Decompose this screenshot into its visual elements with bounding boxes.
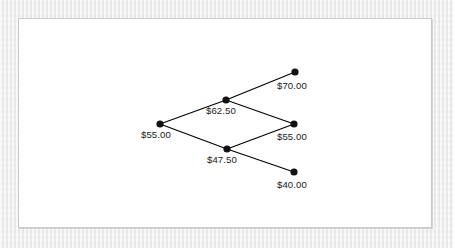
node-value-label-n1u: $62.50: [206, 105, 236, 116]
tree-edge-down: [226, 100, 294, 124]
tree-node-n2ud: [290, 120, 297, 127]
node-value-label-n2ud: $55.00: [277, 131, 307, 142]
tree-node-n0: [156, 120, 163, 127]
tree-node-labels: $55.00$62.50$47.50$70.00$55.00$40.00: [141, 80, 307, 190]
binomial-tree-figure: $55.00$62.50$47.50$70.00$55.00$40.00: [0, 0, 454, 248]
tree-node-n1u: [222, 96, 229, 103]
tree-edge-down: [227, 149, 294, 172]
tree-node-n2dd: [290, 168, 297, 175]
node-value-label-n1d: $47.50: [207, 154, 237, 165]
node-value-label-n2dd: $40.00: [277, 179, 307, 190]
node-value-label-n2uu: $70.00: [277, 80, 307, 91]
tree-node-n1d: [223, 145, 230, 152]
node-value-label-n0: $55.00: [141, 129, 171, 140]
tree-node-n2uu: [291, 68, 298, 75]
screenshot-canvas: $55.00$62.50$47.50$70.00$55.00$40.00: [0, 0, 454, 248]
